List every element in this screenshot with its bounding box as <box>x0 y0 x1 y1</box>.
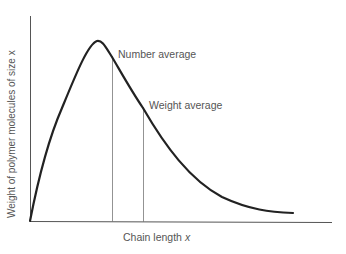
chart-canvas <box>0 0 346 254</box>
weight-average-label: Weight average <box>149 99 222 111</box>
distribution-curve <box>30 41 293 221</box>
x-axis-label: Chain length x <box>123 231 190 243</box>
y-axis-label: Weight of polymer molecules of size x <box>6 50 17 218</box>
x-axis <box>30 222 332 223</box>
x-axis-label-text: Chain length <box>123 231 182 243</box>
x-axis-label-var: x <box>185 231 190 243</box>
number-average-label: Number average <box>118 48 196 60</box>
